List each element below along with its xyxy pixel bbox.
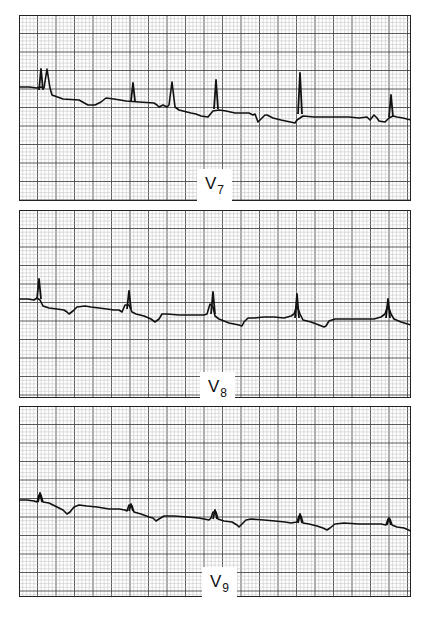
- lead-label-main: V: [205, 174, 216, 193]
- ecg-grid-and-trace: [19, 210, 411, 398]
- cropped-caption-text: [60, 0, 220, 2]
- ecg-strip-v8: V8: [19, 210, 411, 398]
- lead-label: V8: [200, 372, 235, 398]
- lead-label-main: V: [210, 572, 221, 591]
- ecg-strip-v7: V7: [19, 15, 411, 201]
- lead-label: V7: [197, 169, 232, 201]
- lead-label-subscript: 7: [217, 183, 224, 197]
- lead-label: V9: [202, 567, 237, 597]
- ecg-strip-v9: V9: [19, 406, 411, 597]
- lead-label-subscript: 9: [222, 581, 229, 595]
- lead-label-subscript: 8: [220, 386, 227, 400]
- lead-label-main: V: [208, 377, 219, 396]
